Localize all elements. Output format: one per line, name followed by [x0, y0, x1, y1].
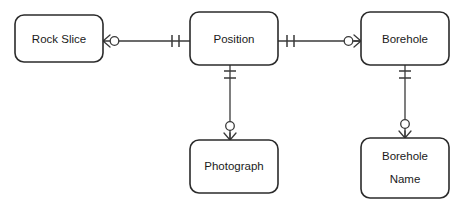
entity-label-borehole-name-line2: Name	[390, 173, 421, 185]
entity-borehole-name[interactable]: Borehole Name	[361, 138, 449, 198]
entity-label-photograph: Photograph	[204, 160, 263, 172]
cardinality-zero-or-many-borehole	[344, 35, 361, 47]
entity-position[interactable]: Position	[190, 12, 278, 65]
optional-circle-icon	[110, 37, 119, 46]
crow-foot-icon	[399, 131, 411, 138]
cardinality-zero-or-many-rockslice	[103, 35, 119, 47]
er-diagram-canvas: Rock Slice Position Borehole Photograph …	[0, 0, 463, 202]
cardinality-zero-or-many-photograph	[224, 122, 236, 140]
relationship-rockslice-position	[103, 35, 190, 47]
entity-box-shape[interactable]	[361, 138, 449, 198]
relationship-position-borehole	[278, 35, 361, 47]
entity-label-borehole-name-line1: Borehole	[382, 150, 428, 162]
crow-foot-icon	[103, 35, 110, 47]
entity-label-borehole: Borehole	[382, 33, 428, 45]
cardinality-zero-or-many-boreholename	[399, 120, 411, 138]
crow-foot-icon	[354, 35, 361, 47]
crow-foot-icon	[224, 133, 236, 140]
optional-circle-icon	[226, 122, 235, 131]
entity-rock-slice[interactable]: Rock Slice	[15, 15, 103, 62]
optional-circle-icon	[401, 120, 410, 129]
optional-circle-icon	[344, 37, 353, 46]
er-diagram-svg: Rock Slice Position Borehole Photograph …	[0, 0, 463, 202]
relationship-borehole-boreholename	[399, 65, 411, 138]
entity-borehole[interactable]: Borehole	[361, 12, 449, 65]
entity-label-position: Position	[214, 33, 255, 45]
entity-photograph[interactable]: Photograph	[190, 140, 278, 193]
entity-label-rock-slice: Rock Slice	[32, 33, 86, 45]
relationship-position-photograph	[224, 65, 236, 140]
